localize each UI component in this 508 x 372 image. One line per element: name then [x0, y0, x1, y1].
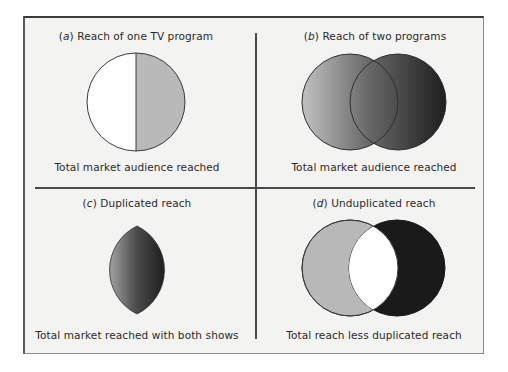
panel-c-title: (c) Duplicated reach — [83, 197, 192, 209]
panel-a-diagram — [87, 53, 185, 151]
panel-b-diagram — [302, 54, 446, 150]
panel-c-diagram — [110, 226, 165, 314]
panel-c-tag: c — [87, 197, 93, 209]
panel-c-title-text: Duplicated reach — [100, 197, 191, 209]
panel-c-lens — [110, 226, 165, 314]
panel-a-title-text: Reach of one TV program — [77, 30, 213, 42]
panel-a-caption: Total market audience reached — [54, 161, 219, 173]
panel-a-reached-half — [136, 53, 185, 151]
panel-a-unreached-half — [87, 53, 136, 151]
panel-b-tag: b — [308, 30, 315, 42]
panel-d-title-text: Unduplicated reach — [331, 197, 435, 209]
panel-c-caption: Total market reached with both shows — [35, 329, 238, 341]
panel-d-diagram — [302, 220, 445, 316]
panel-b-title-text: Reach of two programs — [322, 30, 446, 42]
venn-figures — [0, 0, 508, 372]
panel-b-caption: Total market audience reached — [291, 161, 456, 173]
panel-d-title: (d) Unduplicated reach — [313, 197, 436, 209]
panel-b-title: (b) Reach of two programs — [304, 30, 446, 42]
panel-d-tag: d — [317, 197, 324, 209]
panel-a-tag: a — [63, 30, 70, 42]
panel-d-caption: Total reach less duplicated reach — [286, 329, 462, 341]
panel-a-title: (a) Reach of one TV program — [59, 30, 213, 42]
